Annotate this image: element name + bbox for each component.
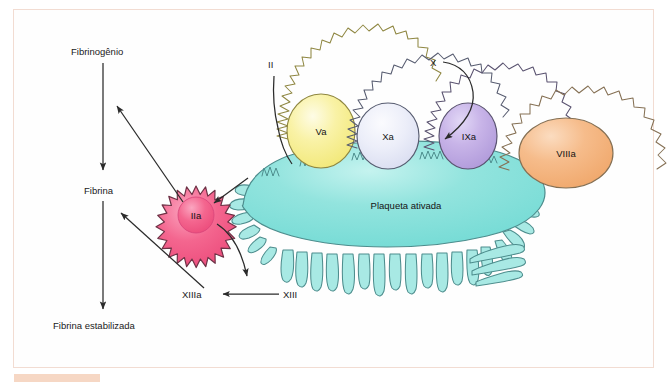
coagulation-diagram: Plaqueta ativada Va Xa IXa — [0, 0, 668, 383]
label-factor-xiii: XIII — [283, 289, 297, 300]
arrow-thrombin-to-fibrin-step — [117, 106, 183, 202]
label-factor-ii: II — [268, 59, 273, 70]
label-fibrinogen: Fibrinogênio — [71, 46, 123, 57]
thrombin-label: IIa — [191, 210, 202, 221]
factor-xa-label: Xa — [382, 131, 394, 142]
factor-viiia-label: VIIIa — [556, 148, 576, 159]
label-factor-xiiia: XIIIa — [182, 289, 202, 300]
figure-page: Plaqueta ativada Va Xa IXa — [0, 0, 668, 383]
factor-va-label: Va — [316, 126, 328, 137]
label-factor-x: X — [430, 57, 437, 68]
accent-bar — [14, 374, 100, 382]
platelet-label: Plaqueta ativada — [371, 200, 442, 211]
label-fibrin: Fibrina — [84, 185, 114, 196]
factor-ixa-label: IXa — [462, 131, 477, 142]
label-stabilized-fibrin: Fibrina estabilizada — [53, 320, 136, 331]
